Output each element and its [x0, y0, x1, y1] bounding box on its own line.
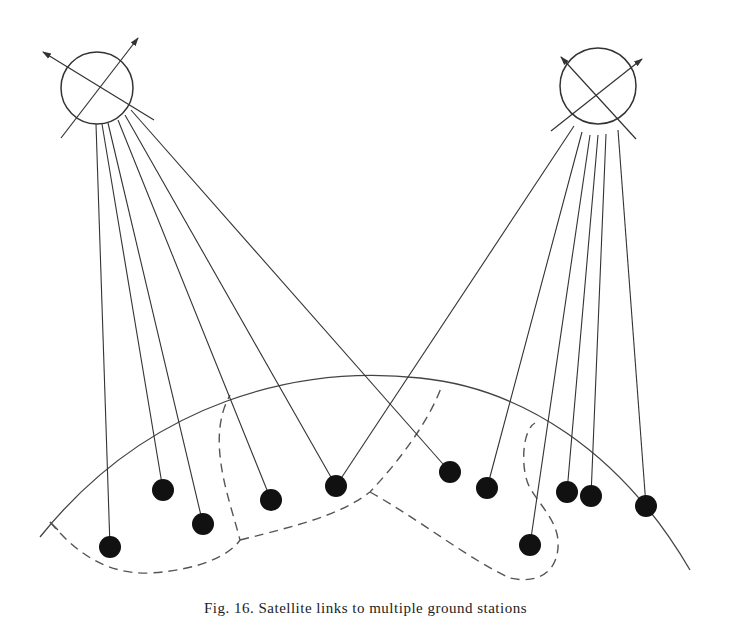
ground-station [152, 479, 174, 501]
ground-stations [99, 461, 657, 558]
ground-station [325, 475, 347, 497]
ground-station [580, 485, 602, 507]
ground-station [260, 489, 282, 511]
ground-station [635, 495, 657, 517]
right-satellite-icon [551, 48, 642, 139]
coverage-region-right-lower [370, 423, 558, 580]
coverage-region-left [50, 395, 240, 573]
ground-station [476, 477, 498, 499]
ground-station [439, 461, 461, 483]
left-satellite-icon [43, 38, 154, 138]
ground-station [556, 481, 578, 503]
ground-station [99, 536, 121, 558]
left-satellite-links [96, 110, 450, 547]
figure-caption: Fig. 16. Satellite links to multiple gro… [0, 600, 731, 617]
ground-station [192, 513, 214, 535]
ground-station [519, 534, 541, 556]
